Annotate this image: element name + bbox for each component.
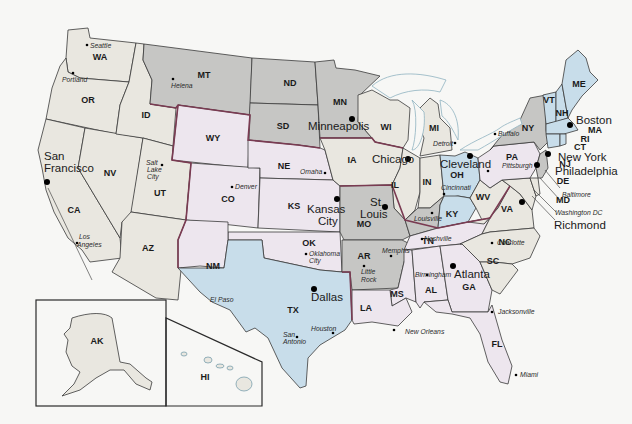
label-mo: MO [357,219,372,229]
city-dot [545,151,551,157]
label-ma: MA [588,125,602,135]
city-minneapolis: Minneapolis [308,120,370,132]
label-vt: VT [543,95,555,105]
city-dot [487,170,490,173]
city-dot [519,199,525,205]
city-dot [332,332,335,335]
label-ok: OK [302,238,316,248]
label-ca: CA [68,205,81,215]
city-salt-lake-city: Lake [147,166,162,173]
label-nv: NV [104,168,117,178]
city-houston: Houston [311,325,337,332]
state-ct[interactable] [546,134,560,148]
state-nm[interactable] [178,220,228,268]
city-dot [491,242,494,245]
label-wa: WA [93,52,108,62]
city-portland: Portland [62,76,88,83]
city-dot [567,122,573,128]
label-va: VA [501,204,513,214]
city-boston: Boston [576,114,612,126]
city-new-york: New York [558,151,607,163]
label-oh: OH [450,170,464,180]
city-dallas: Dallas [311,291,343,303]
label-de: DE [557,176,570,186]
state-ri[interactable] [560,134,566,146]
city-birmingham: Birmingham [415,271,452,279]
city-louisville: Louisville [414,215,442,222]
city-dot [515,374,518,377]
label-ak: AK [91,336,104,346]
city-dot [421,238,424,241]
city-little-rock: Rock [361,276,377,283]
city-philadelphia: Philadelphia [555,165,618,177]
label-or: OR [81,95,95,105]
city-helena: Helena [171,82,193,89]
label-id: ID [142,110,152,120]
label-az: AZ [142,243,154,253]
city-denver: Denver [235,183,258,190]
city-little-rock: Little [361,268,376,275]
label-ms: MS [390,289,404,299]
us-region-map: WA OR CA NV ID UT AZ MT ND SD MN WY CO N… [0,0,632,424]
city-dot [454,142,457,145]
city-st-louis: Louis [360,208,388,220]
city-detroit: Detroit [433,140,454,147]
label-ia: IA [348,155,358,165]
city-dot [231,186,234,189]
label-nd: ND [284,78,297,88]
label-pa: PA [506,152,518,162]
label-ne: NE [278,161,291,171]
city-kansas-city: Kansas [307,203,346,215]
label-ks: KS [288,201,301,211]
city-dot [86,44,89,47]
label-wy: WY [206,133,221,143]
city-los-angeles: Angeles [76,241,102,249]
label-ny: NY [522,123,535,133]
label-ga: GA [462,282,476,292]
label-il: IL [391,180,400,190]
city-st-louis: St. [370,196,384,208]
city-cincinnati: Cincinnati [441,184,471,191]
label-nh: NH [556,108,569,118]
city-seattle: Seattle [90,42,111,49]
city-nashville: Nashville [424,235,452,242]
city-richmond: Richmond [554,219,606,231]
city-buffalo: Buffalo [498,130,519,137]
city-oklahoma-city: Oklahoma [309,250,340,257]
label-la: LA [360,303,372,313]
city-charlotte: Charlotte [497,239,525,246]
label-sc: SC [487,256,500,266]
city-dot [305,253,308,256]
city-dot [431,212,434,215]
label-sd: SD [277,121,290,131]
city-dot [44,179,50,185]
label-mt: MT [198,70,211,80]
city-jacksonville: Jacksonville [497,308,535,315]
label-mi: MI [429,123,439,133]
city-washington-dc: Washington DC [555,209,603,217]
city-san-francisco: Francisco [44,162,94,174]
label-ut: UT [154,188,166,198]
label-tx: TX [287,305,299,315]
label-ky: KY [446,209,459,219]
city-dot [491,311,494,314]
city-salt-lake-city: Salt [146,159,159,166]
label-me: ME [572,79,586,89]
city-new-orleans: New Orleans [405,328,445,335]
city-cleveland: Cleveland [440,158,491,170]
city-dot [443,193,446,196]
label-co: CO [221,194,235,204]
city-san-antonio: San [283,331,295,338]
city-los-angeles: Los [79,233,91,240]
city-omaha: Omaha [300,168,323,175]
city-miami: Miami [520,371,539,378]
city-san-francisco: San [44,150,64,162]
city-oklahoma-city: City [309,257,321,265]
label-hi: HI [201,372,210,382]
city-dot [393,329,396,332]
label-wv: WV [476,192,491,202]
label-fl: FL [492,339,503,349]
city-dot [172,78,175,81]
city-memphis: Memphis [382,247,410,255]
city-salt-lake-city: City [147,173,159,181]
